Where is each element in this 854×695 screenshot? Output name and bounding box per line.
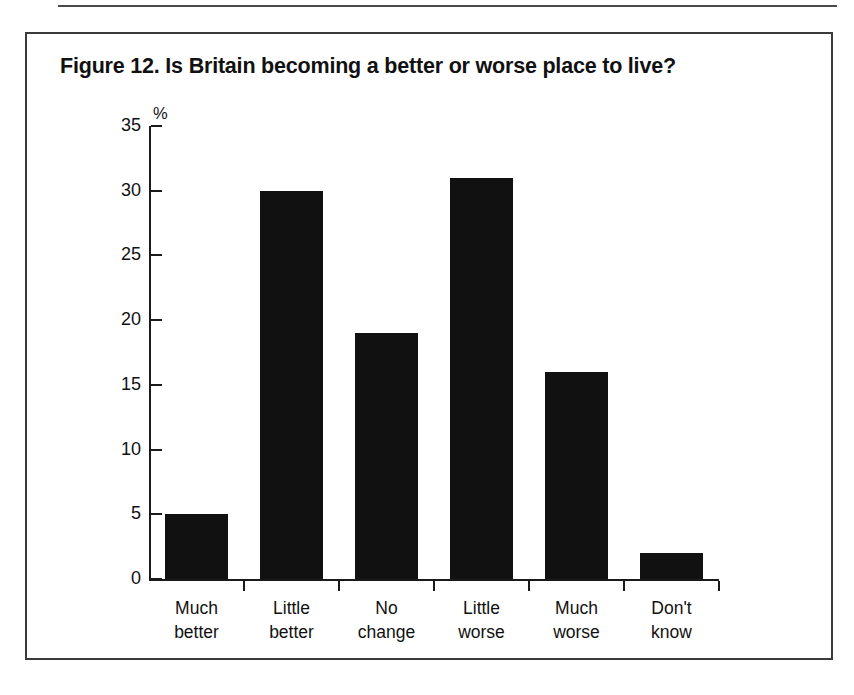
page-top-rule (58, 5, 837, 7)
bar-chart-plot: % 05101520253035 MuchbetterLittlebetterN… (27, 34, 835, 662)
x-axis-category-label-line: Little (434, 596, 529, 620)
x-axis-category-label-line: change (339, 620, 434, 644)
bar[interactable] (640, 553, 703, 579)
x-axis-category-label-line: Much (149, 596, 244, 620)
x-axis-tick (338, 581, 340, 591)
bar[interactable] (450, 178, 513, 579)
x-axis-tick (243, 581, 245, 591)
x-axis-category-label-line: Much (529, 596, 624, 620)
x-axis-category-label: Don'tknow (624, 596, 719, 644)
x-axis-category-label-line: better (244, 620, 339, 644)
x-axis-category-label: Nochange (339, 596, 434, 644)
bar[interactable] (355, 333, 418, 579)
x-axis-category-label-line: better (149, 620, 244, 644)
x-axis-category-label: Muchworse (529, 596, 624, 644)
x-axis-category-label-line: worse (529, 620, 624, 644)
x-axis-category-label: Littleworse (434, 596, 529, 644)
x-axis-tick (528, 581, 530, 591)
bars-layer (27, 34, 835, 579)
x-axis-category-label-line: know (624, 620, 719, 644)
x-axis-category-label: Muchbetter (149, 596, 244, 644)
bar[interactable] (545, 372, 608, 579)
figure-frame: Figure 12. Is Britain becoming a better … (25, 32, 833, 660)
bar[interactable] (260, 191, 323, 579)
bar[interactable] (165, 514, 228, 579)
x-axis-category-label-line: worse (434, 620, 529, 644)
x-axis-category-label-line: No (339, 596, 434, 620)
x-axis-tick (433, 581, 435, 591)
x-axis-tick (623, 581, 625, 591)
x-axis-category-label: Littlebetter (244, 596, 339, 644)
x-axis-tick (718, 581, 720, 591)
x-axis-category-label-line: Don't (624, 596, 719, 620)
x-axis-category-label-line: Little (244, 596, 339, 620)
